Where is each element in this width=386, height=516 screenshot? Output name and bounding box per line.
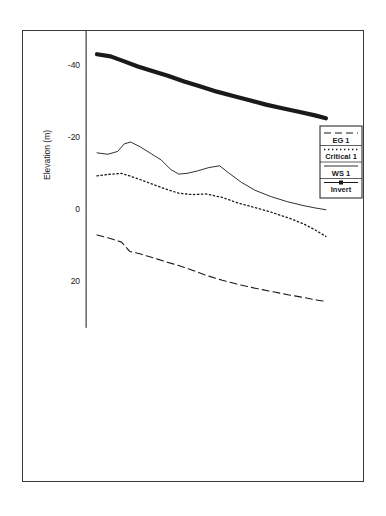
legend-marker-invert [339, 181, 343, 185]
chart-axes [86, 31, 331, 328]
elevation-profile-chart: 200-20-40-600100200300400Main Channel Di… [23, 31, 365, 483]
series-line-critical-1 [97, 173, 326, 236]
series-line-invert [97, 54, 326, 118]
y-tick-label: 20 [71, 276, 81, 286]
figure-frame: 200-20-40-600100200300400Main Channel Di… [22, 30, 364, 482]
y-tick-label: -40 [68, 60, 81, 70]
legend-label-eg-1: EG 1 [332, 136, 349, 145]
series-line-ws-1 [97, 142, 326, 210]
y-axis-title: Elevation (m) [42, 130, 52, 180]
chart-legend: EG 1Critical 1WS 1Invert [320, 126, 362, 198]
legend-label-ws-1: WS 1 [332, 169, 350, 178]
y-tick-label: -20 [68, 132, 81, 142]
chart-series-group [97, 54, 326, 301]
y-axis-ticks: 200-20-40-60 [68, 31, 81, 286]
legend-label-critical-1: Critical 1 [325, 152, 357, 161]
y-tick-label: 0 [75, 204, 80, 214]
legend-label-invert: Invert [331, 185, 352, 194]
series-line-eg-1 [97, 235, 326, 302]
